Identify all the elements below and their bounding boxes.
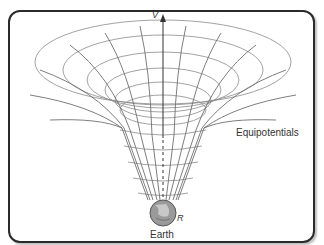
earth-label: Earth [150, 229, 174, 240]
radius-label: R [177, 213, 184, 223]
equipotentials-label: Equipotentials [236, 127, 299, 138]
axis-label-v: V [152, 10, 158, 20]
earth-icon [150, 200, 176, 226]
axis-arrow-icon [160, 14, 166, 22]
potential-well-diagram [0, 0, 324, 245]
